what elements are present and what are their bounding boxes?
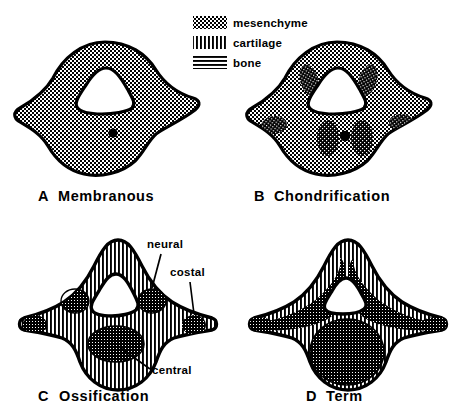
- panel-a-letter: A: [38, 188, 49, 204]
- legend-label-mesenchyme: mesenchyme: [233, 17, 308, 29]
- vertical-lines-swatch: [193, 36, 227, 49]
- horizontal-lines-swatch: [193, 56, 227, 69]
- annotation-label-neural: neural: [147, 238, 183, 250]
- panel-b-letter: B: [254, 188, 264, 204]
- panel-c-letter: C: [38, 388, 49, 404]
- annotation-label-central: central: [152, 364, 192, 376]
- panel-b-center-central-right: [351, 120, 373, 156]
- panel-b-center-central-left: [317, 120, 339, 156]
- legend-item-cartilage: cartilage: [193, 36, 282, 49]
- figure-canvas: mesenchyme cartilage bone A Membranous: [0, 0, 467, 419]
- legend-label-cartilage: cartilage: [233, 37, 282, 49]
- annotation-label-costal: costal: [170, 266, 205, 278]
- vertebral-development-figure: mesenchyme cartilage bone A Membranous: [0, 0, 467, 419]
- panel-b-notochord-dot: [340, 131, 350, 141]
- panel-d-caption: Term: [326, 388, 363, 404]
- legend-label-bone: bone: [233, 57, 261, 69]
- legend-item-mesenchyme: mesenchyme: [193, 16, 308, 29]
- panel-a-caption: Membranous: [58, 188, 154, 204]
- panel-a-notochord-dot: [108, 128, 117, 137]
- checker-pattern-swatch: [193, 16, 227, 29]
- panel-d-letter: D: [306, 388, 316, 404]
- panel-c-caption: Ossification: [59, 388, 149, 404]
- panel-b-caption: Chondrification: [274, 188, 390, 204]
